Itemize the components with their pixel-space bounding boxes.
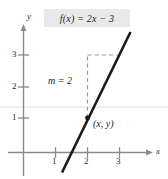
y-tick-label-3: 3 (12, 50, 17, 59)
x-axis-label: x (156, 147, 160, 156)
x-axis-arrowhead (146, 150, 153, 156)
function-title: f(x) = 2x − 3 (44, 9, 130, 27)
y-axis-arrowhead (21, 24, 27, 31)
y-tick-label-1: 1 (12, 113, 17, 122)
x-tick-label-1: 1 (52, 157, 57, 166)
point-marker (85, 116, 90, 121)
x-tick-label-3: 3 (116, 157, 121, 166)
function-line (62, 32, 131, 173)
function-graph-figure: f(x) = 2x − 3 y x 1 2 3 1 2 3 m = 2 (x, … (0, 0, 168, 179)
slope-annotation: m = 2 (48, 76, 72, 86)
y-tick-label-2: 2 (12, 82, 17, 91)
y-axis-label: y (27, 12, 31, 21)
x-tick-label-2: 2 (84, 157, 89, 166)
point-annotation: (x, y) (93, 119, 114, 129)
